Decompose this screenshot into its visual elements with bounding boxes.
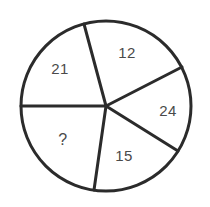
slice-label-24: 24 xyxy=(159,102,177,119)
pie-chart-figure: 12 24 15 ? 21 xyxy=(0,0,210,207)
slice-label-21: 21 xyxy=(51,60,69,77)
pie-chart-svg xyxy=(0,0,210,207)
slice-label-12: 12 xyxy=(118,44,136,61)
slice-label-15: 15 xyxy=(115,147,133,164)
slice-label-unknown: ? xyxy=(58,131,67,149)
